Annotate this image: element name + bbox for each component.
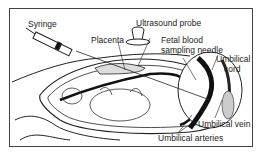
- ultrasound-probe-icon: [126, 27, 150, 45]
- label-cord-1: Umbilical: [216, 55, 250, 64]
- label-fetal-needle-2: sampling needle: [161, 46, 223, 55]
- fetus: [62, 88, 150, 121]
- label-cord-2: cord: [224, 65, 241, 74]
- label-placenta: Placenta: [91, 36, 124, 45]
- label-fetal-needle-1: Fetal blood: [161, 36, 203, 45]
- label-syringe: Syringe: [28, 20, 57, 29]
- label-umbilical-vein: Umbilical vein: [198, 120, 250, 129]
- umbilical-cord-path: [60, 73, 197, 125]
- label-ultrasound-probe: Ultrasound probe: [136, 19, 201, 28]
- label-umbilical-arteries: Umbilical arteries: [158, 134, 223, 143]
